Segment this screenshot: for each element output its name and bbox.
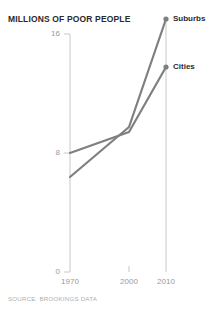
y-tick-label-8: 8 [38, 148, 60, 157]
chart-figure: MILLIONS OF POOR PEOPLE 16 8 0 1970 2000… [0, 0, 214, 316]
data-point-cities-2010 [163, 64, 168, 69]
y-tick-label-0: 0 [38, 267, 60, 276]
source-note: SOURCE: BROOKINGS DATA [8, 295, 97, 302]
chart-plot-area [0, 0, 214, 316]
x-tick-label-2000: 2000 [114, 277, 144, 286]
series-label-suburbs: Suburbs [173, 14, 205, 23]
series-line-cities [70, 67, 166, 153]
data-point-suburbs-2010 [163, 16, 168, 21]
y-tick-label-16: 16 [38, 29, 60, 38]
x-tick-label-1970: 1970 [55, 277, 85, 286]
series-label-cities: Cities [173, 62, 195, 71]
x-tick-label-2010: 2010 [151, 277, 181, 286]
series-line-suburbs [70, 19, 166, 177]
